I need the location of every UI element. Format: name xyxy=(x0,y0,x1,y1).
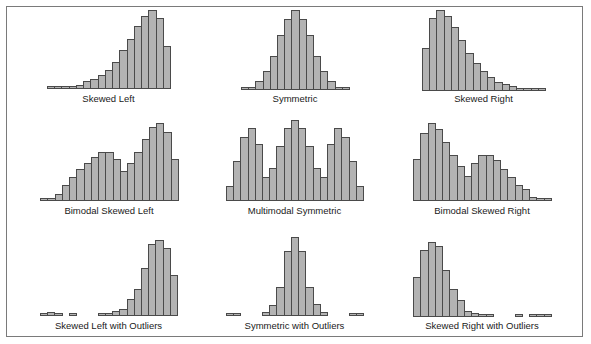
bars xyxy=(40,123,178,201)
histogram-label: Skewed Right with Outliers xyxy=(413,320,551,331)
histogram-skewed-right-with-outliers xyxy=(413,242,551,317)
histogram-skewed-left xyxy=(47,10,170,89)
histogram-bar xyxy=(538,88,546,91)
histogram-bar xyxy=(233,313,241,316)
histogram-bar xyxy=(356,313,364,316)
bars xyxy=(226,237,363,316)
bars xyxy=(241,10,349,90)
histogram-bar xyxy=(515,314,523,317)
histogram-bimodal-skewed-right xyxy=(413,123,551,201)
histogram-bimodal-skewed-left xyxy=(40,123,178,201)
bars xyxy=(413,242,551,317)
histogram-bar xyxy=(69,313,77,316)
histogram-label: Symmetric with Outliers xyxy=(226,320,363,331)
histogram-bar xyxy=(171,159,179,201)
bars xyxy=(226,120,363,201)
histogram-bar xyxy=(170,275,178,316)
histogram-bar xyxy=(356,186,364,201)
histogram-bar xyxy=(486,314,494,317)
histogram-symmetric xyxy=(241,10,349,90)
histogram-bar xyxy=(54,313,62,316)
histogram-label: Bimodal Skewed Left xyxy=(40,205,178,216)
histogram-label: Skewed Right xyxy=(422,93,545,104)
histogram-bar xyxy=(320,312,328,316)
histogram-bar xyxy=(544,198,552,201)
histogram-symmetric-with-outliers xyxy=(226,237,363,316)
histogram-label: Bimodal Skewed Right xyxy=(413,205,551,216)
histogram-label: Multimodal Symmetric xyxy=(226,205,363,216)
bars xyxy=(40,240,177,316)
histogram-bar xyxy=(342,87,350,90)
bars xyxy=(422,10,545,91)
histogram-label: Skewed Left with Outliers xyxy=(40,320,177,331)
histogram-skewed-right xyxy=(422,10,545,91)
histogram-label: Skewed Left xyxy=(47,93,170,104)
bars xyxy=(47,10,170,89)
histogram-skewed-left-with-outliers xyxy=(40,240,177,316)
bars xyxy=(413,123,551,201)
histogram-bar xyxy=(544,314,552,317)
histogram-bar xyxy=(163,46,171,89)
histogram-label: Symmetric xyxy=(241,93,349,104)
histogram-multimodal-symmetric xyxy=(226,120,363,201)
